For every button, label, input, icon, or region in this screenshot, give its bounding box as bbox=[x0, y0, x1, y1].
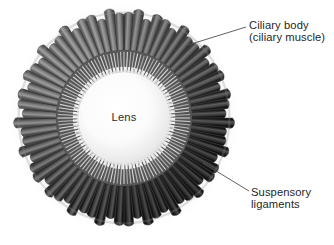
label-suspensory-ligaments: Suspensory ligaments bbox=[251, 186, 311, 211]
label-suspensory-line1: Suspensory bbox=[251, 186, 311, 198]
label-ciliary-body-line2: (ciliary muscle) bbox=[249, 31, 325, 43]
label-suspensory-line2: ligaments bbox=[251, 198, 311, 210]
label-ciliary-body-line1: Ciliary body bbox=[249, 19, 325, 31]
label-ciliary-body: Ciliary body (ciliary muscle) bbox=[249, 19, 325, 44]
ciliary-body-diagram: Ciliary body (ciliary muscle) Suspensory… bbox=[0, 0, 334, 245]
label-lens: Lens bbox=[0, 111, 248, 123]
